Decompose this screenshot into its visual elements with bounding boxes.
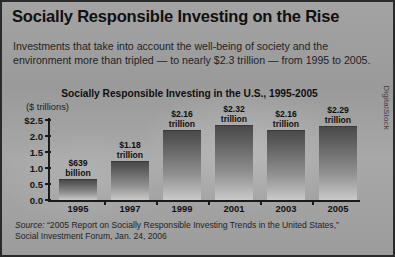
bar: $2.16trillion2003	[267, 130, 305, 200]
x-axis-tick	[312, 200, 314, 205]
infographic-panel: Socially Responsible Investing on the Ri…	[0, 0, 395, 257]
bar-value-label: $639billion	[65, 158, 90, 178]
y-axis-tick	[45, 135, 51, 137]
source-text: “2005 Report on Socially Responsible Inv…	[15, 220, 339, 241]
bar: $2.16trillion1999	[163, 130, 201, 200]
y-axis-tick	[45, 151, 51, 153]
subtitle-deck: Investments that take into account the w…	[13, 40, 371, 67]
bar-value-label: $2.16trillion	[273, 109, 299, 129]
x-axis-tick-label: 1999	[172, 203, 193, 214]
bar: $639billion1995	[59, 179, 97, 200]
y-axis-tick	[45, 119, 51, 121]
bar: $2.32trillion2001	[215, 125, 253, 200]
x-axis-tick-label: 2003	[276, 203, 297, 214]
source-label: Source:	[15, 220, 45, 230]
bar-value-label: $1.18trillion	[117, 140, 143, 160]
y-axis-tick	[45, 167, 51, 169]
x-axis-tick	[156, 200, 158, 205]
x-axis-tick	[260, 200, 262, 205]
x-axis-tick	[208, 200, 210, 205]
chart-title: Socially Responsible Investing in the U.…	[2, 88, 377, 99]
y-axis-tick-label: 0.5	[30, 179, 43, 190]
bar: $2.29trillion2005	[319, 126, 357, 200]
bar: $1.18trillion1997	[111, 161, 149, 200]
y-axis-unit-label: ($ trillions)	[26, 102, 69, 112]
x-axis-tick-label: 1995	[68, 203, 89, 214]
x-axis-tick-label: 2001	[224, 203, 245, 214]
y-axis-line	[48, 118, 50, 202]
y-axis-tick	[45, 199, 51, 201]
y-axis-tick-label: $2.5	[24, 115, 43, 126]
y-axis-tick	[45, 183, 51, 185]
y-axis-tick-label: 1.5	[30, 147, 43, 158]
bar-value-label: $2.32trillion	[221, 104, 247, 124]
bar-value-label: $2.29trillion	[325, 105, 351, 125]
bar-value-label: $2.16trillion	[169, 109, 195, 129]
x-axis-tick-label: 2005	[328, 203, 349, 214]
y-axis-tick-label: 1.0	[30, 163, 43, 174]
photo-credit: DigitalStock	[382, 85, 391, 130]
source-note: Source: “2005 Report on Socially Respons…	[15, 220, 363, 243]
y-axis-tick-label: 0.0	[30, 195, 43, 206]
y-axis-tick-label: 2.0	[30, 131, 43, 142]
x-axis-tick	[104, 200, 106, 205]
page-title: Socially Responsible Investing on the Ri…	[12, 6, 384, 26]
x-axis-tick-label: 1997	[120, 203, 141, 214]
bar-chart-plot-area: 0.00.51.01.52.0$2.5$639billion1995$1.18t…	[48, 118, 360, 202]
